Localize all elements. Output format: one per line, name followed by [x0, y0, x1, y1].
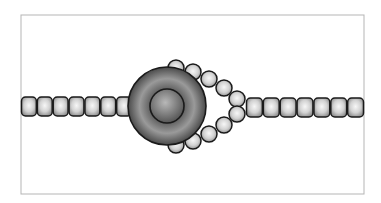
bead [101, 97, 116, 116]
bead [280, 98, 296, 117]
bead [348, 98, 364, 117]
bead [263, 98, 279, 117]
loop-bead [216, 117, 232, 133]
bead [314, 98, 330, 117]
loop-bead [201, 126, 217, 142]
bead [297, 98, 313, 117]
bead [247, 98, 263, 117]
bead [53, 97, 68, 116]
fiber-loop-diagram [0, 0, 381, 203]
ring-protein [128, 67, 206, 145]
loop-bead [216, 80, 232, 96]
loop-bead [229, 106, 245, 122]
right-bead-chain [247, 98, 364, 117]
loop-bead [201, 71, 217, 87]
bead [331, 98, 347, 117]
bead [37, 97, 52, 116]
bead [69, 97, 84, 116]
ring-core [150, 89, 184, 123]
loop-bead [229, 91, 245, 107]
bead [85, 97, 100, 116]
left-bead-chain [22, 97, 132, 116]
bead [22, 97, 37, 116]
